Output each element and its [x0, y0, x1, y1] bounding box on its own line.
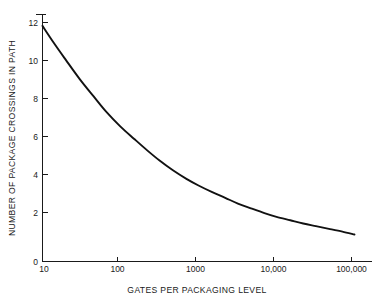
x-tick-label-100000: 100,000 [336, 264, 367, 274]
y-tick-label-4: 4 [33, 170, 38, 180]
y-tick-label-10: 10 [29, 56, 39, 66]
y-tick-label-2: 2 [33, 208, 38, 218]
data-curve-package-crossings [43, 26, 355, 235]
y-tick-label-8: 8 [33, 94, 38, 104]
x-tick-label-1000: 1000 [186, 264, 205, 274]
x-tick-label-10: 10 [39, 264, 49, 274]
chart-figure: 12 10 8 6 4 2 0 10 100 1000 10,000 100,0… [0, 0, 386, 306]
x-tick-label-10000: 10,000 [261, 264, 287, 274]
x-tick-label-100: 100 [110, 264, 124, 274]
y-tick-label-6: 6 [33, 132, 38, 142]
x-tick-labels-group: 10 100 1000 10,000 100,000 [39, 264, 367, 274]
y-ticks-group [43, 23, 48, 213]
axes-group [36, 14, 372, 262]
y-tick-labels-group: 12 10 8 6 4 2 0 [29, 18, 39, 267]
y-tick-label-0: 0 [33, 257, 38, 267]
y-axis-title: NUMBER OF PACKAGE CROSSINGS IN PATH [7, 40, 17, 236]
x-axis-title: GATES PER PACKAGING LEVEL [127, 285, 266, 295]
x-ticks-group [118, 257, 352, 262]
chart-canvas: 12 10 8 6 4 2 0 10 100 1000 10,000 100,0… [0, 0, 386, 306]
y-tick-label-12: 12 [29, 18, 39, 28]
